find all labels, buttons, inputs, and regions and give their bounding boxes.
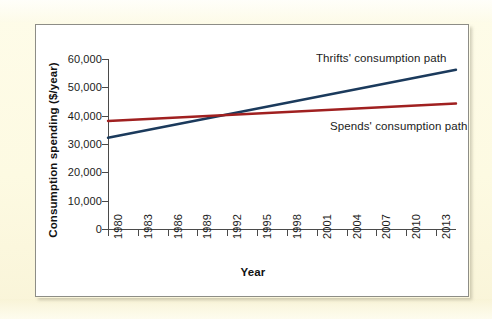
plot-area [0,0,492,319]
series-line-spends [108,103,456,121]
series-label-thrifts: Thrifts' consumption path [316,52,447,64]
series-label-spends: Spends' consumption path [330,120,468,132]
chart-figure: 010,00020,00030,00040,00050,00060,000 19… [0,0,492,319]
